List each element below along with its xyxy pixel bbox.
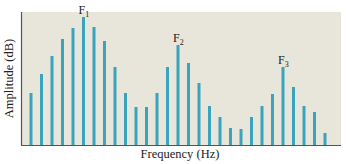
harmonic-bar (103, 41, 106, 145)
harmonic-bar (61, 39, 64, 145)
harmonic-bar (282, 67, 285, 145)
harmonic-bar (114, 67, 117, 145)
harmonic-bar (82, 17, 85, 145)
harmonic-bar (30, 93, 33, 145)
harmonic-bar (156, 93, 159, 145)
formant-label: F1 (79, 3, 90, 19)
harmonic-bar (240, 129, 243, 145)
y-axis-label-text: Amplitude (dB) (3, 39, 18, 119)
harmonic-bar (187, 63, 190, 145)
harmonic-bar (166, 67, 169, 145)
harmonic-bar (198, 83, 201, 145)
harmonic-spectrum-chart: F1F2F3 (0, 0, 346, 164)
harmonic-bar (250, 117, 253, 145)
harmonic-bar (135, 107, 138, 145)
harmonic-bar (40, 74, 43, 145)
harmonic-bar (124, 93, 127, 145)
harmonic-bar (219, 117, 222, 145)
harmonic-bar (208, 106, 211, 145)
harmonic-bar (72, 28, 75, 145)
y-axis-label: Amplitude (dB) (1, 12, 19, 145)
harmonic-bar (145, 107, 148, 145)
harmonic-bar (292, 87, 295, 145)
harmonic-bar (303, 106, 306, 145)
harmonic-bar (313, 112, 316, 145)
harmonic-bar (261, 106, 264, 145)
harmonic-bar (177, 45, 180, 145)
harmonic-bar (324, 133, 327, 145)
harmonic-bar (271, 94, 274, 145)
harmonic-bar (93, 27, 96, 145)
harmonic-bar (229, 128, 232, 145)
harmonic-bar (51, 56, 54, 145)
x-axis-label: Frequency (Hz) (0, 147, 346, 162)
